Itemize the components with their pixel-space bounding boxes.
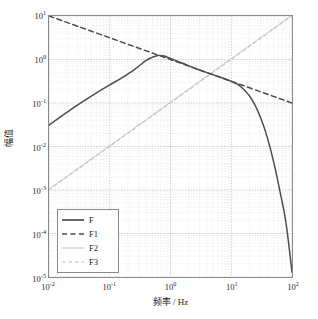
y-tick-mantissa: 10 <box>32 142 41 152</box>
y-tick-label: 10-1 <box>2 98 46 108</box>
x-tick-label: 101 <box>212 281 252 291</box>
y-tick-mantissa: 10 <box>34 55 43 65</box>
legend-item-f3[interactable]: F3 <box>61 255 116 269</box>
x-tick-exponent: -2 <box>50 280 55 287</box>
y-tick-exponent: -2 <box>41 141 46 148</box>
legend-box: FF1F2F3 <box>57 209 119 273</box>
legend-item-f[interactable]: F <box>61 213 116 227</box>
legend-line-sample-f1 <box>61 229 85 239</box>
x-tick-exponent: 2 <box>296 280 299 287</box>
y-tick-label: 10-3 <box>2 185 46 195</box>
x-tick-mantissa: 10 <box>102 282 111 292</box>
x-tick-exponent: 0 <box>173 280 176 287</box>
x-tick-label: 102 <box>273 281 313 291</box>
legend-line-sample-f2 <box>61 243 85 253</box>
chart-figure: 10110010-110-210-310-410-5 10-210-110010… <box>0 0 318 319</box>
y-tick-exponent: 1 <box>43 9 46 16</box>
x-tick-exponent: 1 <box>234 280 237 287</box>
y-tick-label: 100 <box>2 54 46 64</box>
legend-line-sample-f <box>61 215 85 225</box>
x-tick-mantissa: 10 <box>41 282 50 292</box>
y-axis-title: 幅值 <box>2 108 15 168</box>
y-tick-exponent: -4 <box>41 228 46 235</box>
x-axis-title: 频率 / Hz <box>48 295 293 308</box>
series-line-f1 <box>49 16 292 103</box>
legend-label: F1 <box>85 230 98 239</box>
y-tick-exponent: 0 <box>43 53 46 60</box>
legend-item-f2[interactable]: F2 <box>61 241 116 255</box>
y-tick-mantissa: 10 <box>34 11 43 21</box>
legend-label: F2 <box>85 244 98 253</box>
legend-label: F3 <box>85 258 98 267</box>
y-tick-mantissa: 10 <box>32 186 41 196</box>
y-tick-label: 101 <box>2 10 46 20</box>
x-tick-label: 100 <box>151 281 191 291</box>
x-tick-label: 10-1 <box>89 281 129 291</box>
x-tick-label: 10-2 <box>28 281 68 291</box>
y-tick-exponent: -3 <box>41 184 46 191</box>
y-tick-label: 10-4 <box>2 229 46 239</box>
series-line-f3 <box>49 16 292 190</box>
legend-line-sample-f3 <box>61 257 85 267</box>
x-tick-mantissa: 10 <box>165 282 174 292</box>
y-tick-mantissa: 10 <box>32 230 41 240</box>
x-tick-mantissa: 10 <box>287 282 296 292</box>
legend-item-f1[interactable]: F1 <box>61 227 116 241</box>
y-tick-exponent: -1 <box>41 97 46 104</box>
y-tick-mantissa: 10 <box>32 98 41 108</box>
y-tick-exponent: -5 <box>41 272 46 279</box>
x-tick-exponent: -1 <box>111 280 116 287</box>
legend-label: F <box>85 216 94 225</box>
